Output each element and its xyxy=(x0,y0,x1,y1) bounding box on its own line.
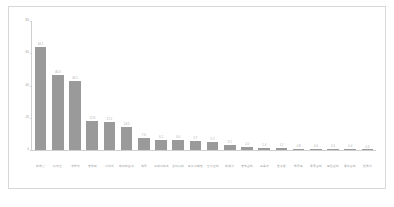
bar-rect[interactable] xyxy=(104,122,116,150)
plot-area: 020406080 64.146.343.117.817.214.57.66.1… xyxy=(31,21,376,167)
x-axis-label: 회계사 xyxy=(221,153,238,171)
bar-value-label: 2.0 xyxy=(245,143,249,146)
x-axis-label: 물류관리 xyxy=(307,153,324,171)
bar-item[interactable]: 0.6 xyxy=(307,21,324,150)
x-axis-label-text: 마케팅 xyxy=(36,165,45,168)
x-axis-label: 보안관리 xyxy=(324,153,341,171)
x-axis-label-text: 품질관리 xyxy=(345,165,356,168)
bar-value-label: 1.2 xyxy=(279,144,283,147)
x-axis-label: 교육자 xyxy=(256,153,273,171)
bar-rect[interactable] xyxy=(35,47,47,150)
bar-rect[interactable] xyxy=(69,81,81,150)
bar-value-label: 17.8 xyxy=(89,117,95,120)
x-axis-label: 데이터분석 xyxy=(118,153,135,171)
y-axis-tick-label: 40 xyxy=(26,84,29,87)
bar-item[interactable]: 14.5 xyxy=(118,21,135,150)
x-axis-label: 영업관리 xyxy=(238,153,255,171)
x-axis-label-text: 영업관리 xyxy=(241,165,252,168)
x-axis-label-text: 디자인 xyxy=(54,165,63,168)
x-axis-label: 고객서비스 xyxy=(152,153,169,171)
y-axis-tick-label: 0 xyxy=(27,148,29,151)
bar-item[interactable]: 1.4 xyxy=(256,21,273,150)
x-axis-label: 영업직 xyxy=(84,153,101,171)
x-axis-label-text: 법무직 xyxy=(294,165,303,168)
bar-item[interactable]: 0.4 xyxy=(342,21,359,150)
bar-value-label: 1.4 xyxy=(262,144,266,147)
x-axis-label-text: 고객서비스 xyxy=(154,165,168,168)
x-axis-label: 엔지니어 xyxy=(170,153,187,171)
bar-rect[interactable] xyxy=(121,127,133,150)
bar-value-label: 5.2 xyxy=(211,138,215,141)
x-axis-label: 개발자 xyxy=(66,153,83,171)
x-axis-label-text: 데이터분석 xyxy=(119,165,133,168)
bar-value-label: 0.8 xyxy=(297,145,301,148)
x-axis-line xyxy=(31,150,376,151)
y-axis-tick-label: 60 xyxy=(26,52,29,55)
x-axis-label-text: 보안관리 xyxy=(327,165,338,168)
x-axis-label: 연구원 xyxy=(273,153,290,171)
bar-rect[interactable] xyxy=(52,75,64,150)
bar-value-label: 0.6 xyxy=(314,145,318,148)
x-axis-label-text: 연구원 xyxy=(277,165,286,168)
x-axis-label-text: 기획자 xyxy=(105,165,114,168)
bar-rect[interactable] xyxy=(207,142,219,150)
x-axis-label-text: 회계사 xyxy=(226,165,235,168)
bar-item[interactable]: 7.6 xyxy=(135,21,152,150)
bar-value-label: 43.1 xyxy=(72,77,78,80)
bar-item[interactable]: 0.3 xyxy=(359,21,376,150)
bar-item[interactable]: 1.2 xyxy=(273,21,290,150)
bar-rect[interactable] xyxy=(86,121,98,150)
bar-value-label: 14.5 xyxy=(124,123,130,126)
bar-value-label: 3.1 xyxy=(228,141,232,144)
bar-value-label: 0.4 xyxy=(348,145,352,148)
bar-item[interactable]: 17.2 xyxy=(101,21,118,150)
x-axis-label-text: 개발자 xyxy=(71,165,80,168)
bar-series: 64.146.343.117.817.214.57.66.16.45.75.23… xyxy=(32,21,376,150)
x-axis-label: 마케팅 xyxy=(32,153,49,171)
x-axis-label-text: 프로그래밍 xyxy=(188,165,202,168)
x-axis-label-text: 번역가 xyxy=(363,165,372,168)
x-axis-label: 기획자 xyxy=(101,153,118,171)
x-axis-label: 인사관리 xyxy=(204,153,221,171)
bar-item[interactable]: 46.3 xyxy=(49,21,66,150)
bar-item[interactable]: 0.5 xyxy=(324,21,341,150)
bar-item[interactable]: 17.8 xyxy=(84,21,101,150)
y-axis-tick-label: 80 xyxy=(26,19,29,22)
x-axis-label: 법무직 xyxy=(290,153,307,171)
x-axis-label: 번역가 xyxy=(359,153,376,171)
bar-item[interactable]: 5.2 xyxy=(204,21,221,150)
bar-item[interactable]: 3.1 xyxy=(221,21,238,150)
bar-value-label: 0.5 xyxy=(331,145,335,148)
bar-item[interactable]: 6.4 xyxy=(170,21,187,150)
bar-rect[interactable] xyxy=(155,140,167,150)
bar-value-label: 46.3 xyxy=(55,71,61,74)
x-axis-labels: 마케팅디자인개발자영업직기획자데이터분석재무고객서비스엔지니어프로그래밍인사관리… xyxy=(32,153,376,171)
x-axis-label-text: 엔지니어 xyxy=(173,165,184,168)
bar-item[interactable]: 0.8 xyxy=(290,21,307,150)
bar-item[interactable]: 43.1 xyxy=(66,21,83,150)
bar-rect[interactable] xyxy=(172,140,184,150)
bar-value-label: 7.6 xyxy=(142,134,146,137)
x-axis-label: 재무 xyxy=(135,153,152,171)
bar-rect[interactable] xyxy=(138,138,150,150)
bar-item[interactable]: 64.1 xyxy=(32,21,49,150)
bar-value-label: 6.1 xyxy=(159,136,163,139)
bar-item[interactable]: 5.7 xyxy=(187,21,204,150)
bar-value-label: 17.2 xyxy=(107,118,113,121)
x-axis-label: 품질관리 xyxy=(342,153,359,171)
x-axis-label-text: 교육자 xyxy=(260,165,269,168)
bar-value-label: 0.3 xyxy=(365,146,369,149)
bar-value-label: 5.7 xyxy=(193,137,197,140)
y-axis-tick-label: 20 xyxy=(26,116,29,119)
bar-value-label: 64.1 xyxy=(38,43,44,46)
x-axis-label-text: 영업직 xyxy=(88,165,97,168)
x-axis-label: 디자인 xyxy=(49,153,66,171)
x-axis-label-text: 물류관리 xyxy=(310,165,321,168)
x-axis-label: 프로그래밍 xyxy=(187,153,204,171)
bar-rect[interactable] xyxy=(190,141,202,150)
bar-item[interactable]: 2.0 xyxy=(238,21,255,150)
chart-frame: 020406080 64.146.343.117.817.214.57.66.1… xyxy=(8,6,386,189)
bar-value-label: 6.4 xyxy=(176,136,180,139)
bar-item[interactable]: 6.1 xyxy=(152,21,169,150)
x-axis-label-text: 인사관리 xyxy=(207,165,218,168)
